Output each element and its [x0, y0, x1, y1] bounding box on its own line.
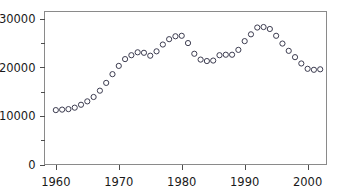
- x-tick-label-1990: 1990: [230, 175, 259, 189]
- y-tick-label-10000: 10000: [0, 109, 36, 123]
- data-point: [72, 105, 77, 110]
- data-point: [91, 94, 96, 99]
- data-point: [211, 58, 216, 63]
- data-point: [192, 51, 197, 56]
- data-point: [305, 66, 310, 71]
- data-point: [311, 67, 316, 72]
- data-point: [110, 72, 115, 77]
- data-point: [280, 41, 285, 46]
- data-point: [318, 67, 323, 72]
- data-point: [173, 34, 178, 39]
- data-point: [217, 53, 222, 58]
- data-point: [255, 25, 260, 30]
- data-point: [229, 52, 234, 57]
- data-point: [204, 58, 209, 63]
- data-point-series: [53, 24, 323, 112]
- data-point: [299, 61, 304, 66]
- data-point: [66, 107, 71, 112]
- scatter-chart-figure: 0100002000030000 19601970198019902000: [0, 0, 337, 196]
- data-point: [135, 50, 140, 55]
- data-point: [78, 102, 83, 107]
- x-tick-label-2000: 2000: [293, 175, 322, 189]
- x-tick-label-1970: 1970: [104, 175, 133, 189]
- data-point: [160, 42, 165, 47]
- data-point: [286, 48, 291, 53]
- x-axis-major-ticks: [57, 165, 309, 170]
- data-point: [129, 53, 134, 58]
- data-point: [242, 39, 247, 44]
- data-point: [53, 108, 58, 113]
- data-point: [60, 107, 65, 112]
- data-point: [104, 80, 109, 85]
- x-tick-label-1980: 1980: [167, 175, 196, 189]
- data-point: [154, 49, 159, 54]
- data-point: [267, 26, 272, 31]
- data-point: [198, 57, 203, 62]
- y-tick-label-30000: 30000: [0, 12, 36, 26]
- x-axis-tick-labels: 19601970198019902000: [41, 175, 322, 189]
- data-point: [223, 52, 228, 57]
- data-point: [179, 33, 184, 38]
- x-tick-label-1960: 1960: [41, 175, 70, 189]
- data-point: [261, 24, 266, 29]
- chart-title: [0, 0, 337, 2]
- data-point: [122, 57, 127, 62]
- y-tick-label-20000: 20000: [0, 61, 36, 75]
- data-point: [97, 88, 102, 93]
- y-axis-tick-labels: 0100002000030000: [0, 12, 36, 172]
- data-point: [248, 32, 253, 37]
- data-point: [116, 63, 121, 68]
- data-point: [167, 37, 172, 42]
- data-point: [185, 40, 190, 45]
- data-point: [141, 50, 146, 55]
- data-point: [292, 55, 297, 60]
- y-tick-label-0: 0: [28, 158, 35, 172]
- data-point: [236, 47, 241, 52]
- data-point: [85, 99, 90, 104]
- chart-canvas: 0100002000030000 19601970198019902000: [0, 0, 337, 196]
- y-axis-minor-ticks: [41, 44, 45, 141]
- data-point: [274, 33, 279, 38]
- plot-frame: [45, 12, 327, 165]
- data-point: [148, 53, 153, 58]
